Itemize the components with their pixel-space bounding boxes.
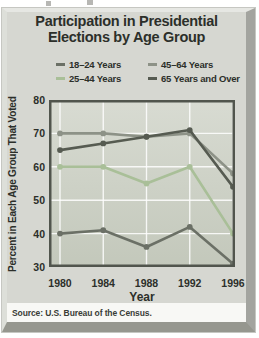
data-point-marker	[100, 227, 106, 233]
data-point-marker	[144, 244, 150, 250]
chart-title-line1: Participation in Presidential	[7, 13, 246, 29]
data-point-marker	[100, 164, 106, 170]
x-tick-label: 1992	[178, 277, 201, 289]
source-text: Source: U.S. Bureau of the Census.	[7, 308, 152, 318]
legend-item: 25–44 Years	[56, 73, 148, 84]
x-tick-label: 1984	[92, 277, 115, 289]
legend-item: 65 Years and Over	[148, 73, 240, 84]
data-point-marker	[187, 127, 193, 133]
cropped-text-fragment	[87, 0, 93, 5]
data-point-marker	[57, 131, 63, 137]
data-point-marker	[187, 224, 193, 230]
legend-item: 45–64 Years	[148, 59, 240, 70]
data-point-marker	[100, 141, 106, 147]
source-strip: Source: U.S. Bureau of the Census.	[7, 303, 246, 322]
figure-page: Participation in Presidential Elections …	[0, 0, 259, 338]
chart-legend: 18–24 Years45–64 Years25–44 Years65 Year…	[56, 57, 240, 85]
plot-svg	[49, 100, 235, 267]
y-tick-label: 70	[24, 127, 45, 139]
data-point-marker	[187, 164, 193, 170]
chart-title-line2: Elections by Age Group	[7, 29, 246, 45]
y-tick-label: 40	[24, 228, 45, 240]
x-tick-labels: 19801984198819921996	[49, 277, 235, 289]
y-tick-label: 60	[24, 161, 45, 173]
legend-item: 18–24 Years	[56, 59, 148, 70]
legend-dash-icon	[56, 77, 65, 80]
y-tick-labels: 304050607080	[24, 100, 45, 267]
legend-label: 25–44 Years	[69, 73, 121, 84]
y-tick-label: 80	[24, 94, 45, 106]
chart-title: Participation in Presidential Elections …	[7, 13, 246, 45]
data-point-marker	[144, 181, 150, 187]
x-tick-label: 1980	[48, 277, 71, 289]
legend-label: 18–24 Years	[69, 59, 121, 70]
legend-label: 45–64 Years	[161, 59, 213, 70]
data-point-marker	[57, 164, 63, 170]
data-point-marker	[144, 134, 150, 140]
data-point-marker	[100, 131, 106, 137]
legend-dash-icon	[56, 63, 65, 66]
data-point-marker	[57, 147, 63, 153]
y-axis-title: Percent in Each Age Group That Voted	[7, 88, 21, 280]
cropped-text-fragment	[46, 1, 51, 6]
legend-dash-icon	[148, 63, 157, 66]
y-tick-label: 50	[24, 194, 45, 206]
x-tick-label: 1996	[221, 277, 244, 289]
x-axis-title: Year	[49, 290, 235, 304]
y-tick-label: 30	[24, 261, 45, 273]
legend-dash-icon	[148, 77, 157, 80]
x-tick-label: 1988	[135, 277, 158, 289]
legend-label: 65 Years and Over	[161, 73, 240, 84]
data-point-marker	[57, 231, 63, 237]
